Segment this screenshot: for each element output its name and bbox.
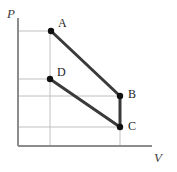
grid-vertical-lines	[50, 31, 120, 146]
process-path-group	[50, 31, 120, 127]
state-point-b	[117, 93, 123, 99]
pv-diagram-figure: P V A B C D	[0, 0, 177, 172]
x-axis-label: V	[154, 151, 162, 164]
state-point-c	[117, 124, 123, 130]
state-point-group	[47, 28, 123, 130]
state-point-a	[48, 28, 54, 34]
pv-diagram-canvas	[0, 0, 177, 172]
y-axis-label: P	[7, 7, 15, 20]
grid-horizontal-lines	[18, 31, 120, 127]
state-label-a: A	[58, 17, 67, 29]
state-label-b: B	[128, 88, 136, 100]
state-label-c: C	[128, 120, 136, 132]
state-label-d: D	[57, 66, 66, 78]
state-point-d	[47, 76, 53, 82]
